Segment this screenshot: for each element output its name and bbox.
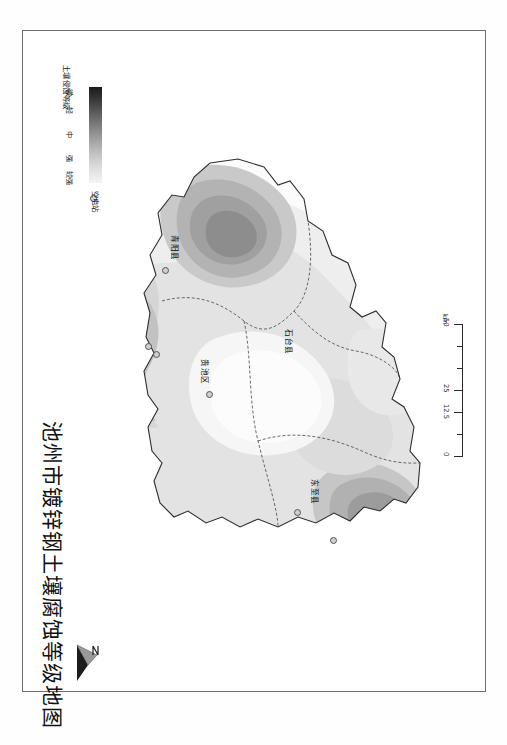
county-label-guichi: 贵池区: [198, 359, 210, 385]
page-canvas: 土壤侵蚀等级 微 轻 中 强 较强 空电站 池州市镀锌钢土壤腐蚀等级地图: [0, 0, 507, 745]
station-marker[interactable]: [206, 391, 213, 398]
legend-label-zhong: 中: [63, 131, 75, 138]
erosion-choropleth: [118, 151, 448, 601]
scale-tick-minor-c: [457, 434, 463, 435]
station-marker[interactable]: [294, 509, 301, 516]
map-frame: 土壤侵蚀等级 微 轻 中 强 较强 空电站 池州市镀锌钢土壤腐蚀等级地图: [22, 30, 486, 692]
county-label-shitai: 石台县: [282, 329, 294, 355]
legend-label-jiaoqiang: 较强: [63, 171, 75, 185]
scale-tick-50: [454, 324, 463, 325]
scale-tick-12-5: [454, 412, 463, 413]
station-marker[interactable]: [153, 351, 160, 358]
page-title: 池州市镀锌钢土壤腐蚀等级地图: [32, 421, 72, 721]
county-label-dongzhi: 东至县: [308, 479, 320, 505]
legend-label-qiang: 强: [63, 155, 75, 162]
legend-gradient-bar: [89, 87, 102, 183]
county-label-qingyang: 青阳县: [168, 235, 180, 261]
station-marker[interactable]: [162, 267, 169, 274]
north-arrow-icon: [71, 641, 105, 685]
station-marker[interactable]: [330, 537, 337, 544]
legend-label-qing: 轻: [63, 107, 75, 114]
legend-title: 土壤侵蚀等级: [59, 65, 73, 185]
scale-tick-minor-a: [457, 346, 463, 347]
scale-tick-0: [454, 456, 463, 457]
scale-tick-25: [454, 390, 463, 391]
legend-station-label: 空电站: [89, 191, 101, 261]
map-canvas[interactable]: 青阳县 贵池区 石台县 东至县: [118, 151, 448, 601]
station-marker[interactable]: [145, 343, 152, 350]
scale-tick-minor-b: [457, 368, 463, 369]
legend-label-wei: 微: [63, 89, 75, 96]
